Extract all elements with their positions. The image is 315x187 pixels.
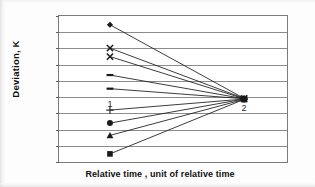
- series-line: [110, 99, 244, 154]
- data-point-marker-circle: [107, 120, 113, 126]
- data-point-marker-cross-x: [107, 45, 113, 51]
- series-line: [110, 25, 244, 99]
- data-point-marker-square: [241, 97, 247, 103]
- series-square: [107, 97, 247, 157]
- x-axis-title: Relative time , unit of relative time: [20, 169, 300, 179]
- series-layer: [59, 16, 287, 162]
- data-point-marker-cross-x: [107, 53, 113, 59]
- data-point-marker-diamond: [107, 22, 113, 28]
- y-axis-title: Deviation, K: [9, 19, 23, 119]
- scan-artifact-left: [0, 0, 5, 187]
- data-point-marker-dash: [107, 88, 114, 90]
- series-line: [110, 57, 244, 99]
- series-line: [110, 48, 244, 98]
- y-axis-tick-mark: [56, 162, 59, 163]
- series-line: [110, 99, 244, 123]
- data-point-marker-square: [107, 151, 113, 157]
- plot-area: 2520151050-5-10-15-20 12: [58, 15, 288, 163]
- series-cross-x: [107, 53, 247, 101]
- series-dash: [107, 88, 248, 100]
- scan-artifact-bottom: [0, 183, 315, 187]
- data-point-marker-plus: [106, 106, 114, 114]
- series-diamond: [107, 22, 247, 102]
- series-line: [110, 89, 244, 99]
- data-point-marker-dash: [107, 74, 114, 76]
- scan-artifact-top: [0, 0, 315, 3]
- chart-container: Deviation, K 2520151050-5-10-15-20 12 Re…: [0, 0, 315, 187]
